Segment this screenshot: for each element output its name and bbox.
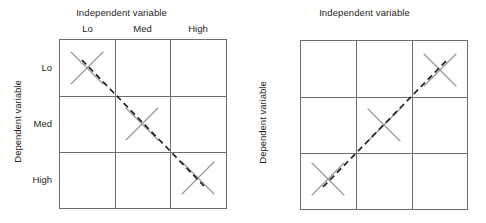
panel-negative-relationship: Independent variable Dependent variable … (0, 0, 243, 223)
figure-container: Independent variable Dependent variable … (0, 0, 486, 223)
data-markers (312, 54, 456, 195)
marker-lo-high (312, 163, 344, 195)
marker-high-lo (424, 54, 456, 86)
marker-lo-lo (71, 52, 103, 84)
plot-area (243, 0, 486, 223)
plot-area (0, 0, 243, 223)
marker-med-med (126, 108, 158, 140)
marker-high-high (182, 162, 214, 194)
panel-positive-relationship: Independent variable Dependent variable … (243, 0, 486, 223)
data-markers (71, 52, 214, 194)
